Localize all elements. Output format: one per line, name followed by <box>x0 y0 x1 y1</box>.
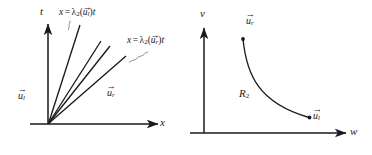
lower-point-u: →u <box>313 111 318 121</box>
eq-u-left: →u <box>83 8 88 18</box>
curve-lower-point-label: →ul <box>313 111 320 122</box>
left-equation-leader <box>68 21 70 31</box>
x-axis-label: x <box>160 117 165 128</box>
right-state-label: →ur <box>107 88 115 99</box>
t-axis-label: t <box>40 6 43 17</box>
v-axis-label: v <box>200 8 205 19</box>
eq-x-left: x <box>59 7 63 17</box>
right-state-subscript: r <box>112 91 115 99</box>
fan-ray-1 <box>49 25 81 124</box>
left-state-u: →u <box>18 91 23 101</box>
r2-curve <box>243 39 309 118</box>
eq-x-right: x <box>127 35 131 45</box>
upper-state-point <box>241 37 245 41</box>
lower-point-subscript: l <box>318 114 320 122</box>
eq-equals-right: = <box>133 35 138 45</box>
left-state-label: →ul <box>18 91 25 102</box>
fan-ray-2 <box>49 41 102 124</box>
right-state-u: →u <box>107 88 112 98</box>
eq-u-right: →u <box>151 36 156 46</box>
upper-point-subscript: r <box>251 19 254 27</box>
vector-arrow-icon: → <box>83 3 88 7</box>
wv-plane-panel <box>190 28 346 133</box>
right-edge-equation: x=λ2(→ur)t <box>127 36 164 46</box>
vector-arrow-icon: → <box>313 105 318 110</box>
eq-t-left: t <box>93 7 96 17</box>
eq-t-right: t <box>162 35 165 45</box>
vector-arrow-icon: → <box>246 10 251 15</box>
figure-canvas <box>0 0 372 155</box>
left-edge-equation: x=λ2(→ul)t <box>59 8 95 18</box>
lower-state-point <box>308 116 312 120</box>
r2-subscript: 2 <box>246 92 250 100</box>
r2-letter: R <box>239 87 246 99</box>
curve-upper-point-label: →ur <box>246 16 254 27</box>
vector-arrow-icon: → <box>107 82 112 87</box>
fan-ray-3 <box>49 46 111 124</box>
upper-point-u: →u <box>246 16 251 26</box>
r2-curve-label: R2 <box>239 88 249 100</box>
vector-arrow-icon: → <box>18 85 23 90</box>
rarefaction-fan <box>49 25 127 124</box>
right-equation-leader <box>129 52 148 63</box>
w-axis-label: w <box>350 126 357 137</box>
eq-equals-left: = <box>65 7 70 17</box>
left-state-subscript: l <box>23 94 25 102</box>
vector-arrow-icon: → <box>151 31 156 35</box>
